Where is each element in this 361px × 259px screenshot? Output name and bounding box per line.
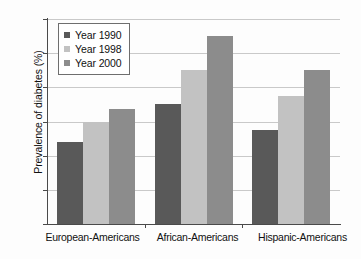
y-tick-mark [43,190,47,191]
x-tick-mark [145,224,146,228]
legend-item: Year 1998 [64,42,122,56]
legend-item: Year 2000 [64,56,122,70]
legend-item-label: Year 1990 [75,29,122,41]
y-tick-mark [43,122,47,123]
y-tick-mark [43,156,47,157]
y-tick-mark [43,224,47,225]
legend-swatch-icon [64,60,70,66]
bar [181,70,207,224]
bar-group [252,19,330,224]
x-axis-category-label: African-Americans [145,231,250,243]
x-axis-line [47,224,341,225]
legend-item: Year 1990 [64,28,122,42]
bar [57,142,83,224]
legend-item-label: Year 1998 [75,43,122,55]
y-tick-mark [43,19,47,20]
legend-item-label: Year 2000 [75,57,122,69]
bar [304,70,330,224]
legend-swatch-icon [64,46,70,52]
bar [207,36,233,224]
bar [278,96,304,224]
y-tick-mark [43,87,47,88]
y-axis-title: Prevalence of diabetes (%) [32,12,44,212]
chart-legend: Year 1990Year 1998Year 2000 [58,23,130,75]
legend-swatch-icon [64,32,70,38]
x-axis-category-label: European-Americans [40,231,145,243]
bar [252,130,278,224]
bar-group [155,19,233,224]
bar [83,122,109,225]
x-axis-category-label: Hispanic-Americans [250,231,355,243]
bar-chart-figure: Prevalence of diabetes (%) 121086420 Eur… [0,0,361,259]
x-axis-category-labels: European-AmericansAfrican-AmericansHispa… [40,231,355,243]
bar [109,109,135,224]
x-tick-mark [242,224,243,228]
y-tick-mark [43,53,47,54]
bar [155,104,181,224]
